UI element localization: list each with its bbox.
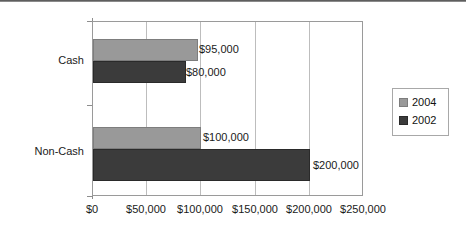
data-label-cash-2002: $80,000	[186, 66, 226, 78]
bar-noncash-2002[interactable]	[93, 149, 310, 181]
category-label-non-cash: Non-Cash	[10, 145, 84, 157]
legend-label-2004: 2004	[412, 96, 436, 108]
legend-item-2004[interactable]: 2004	[399, 96, 436, 108]
chart-legend: 2004 2002	[392, 88, 449, 136]
x-tick-label-100000: $100,000	[170, 203, 230, 215]
bar-chart: $95,000 $80,000 $100,000 $200,000 Cash N…	[0, 0, 466, 231]
y-axis-tick-bottom	[87, 196, 92, 197]
legend-item-2002[interactable]: 2002	[399, 114, 436, 126]
x-tick-label-250000: $250,000	[333, 203, 393, 215]
data-label-cash-2004: $95,000	[199, 43, 239, 55]
data-label-noncash-2002: $200,000	[313, 159, 359, 171]
x-tick-label-0: $0	[62, 203, 122, 215]
scan-top-edge	[0, 0, 466, 2]
legend-swatch-2004-icon	[399, 98, 408, 107]
category-label-cash: Cash	[10, 54, 84, 66]
bar-cash-2004[interactable]	[93, 39, 198, 61]
bar-cash-2002[interactable]	[93, 61, 186, 83]
x-tick-label-50000: $50,000	[116, 203, 176, 215]
legend-label-2002: 2002	[412, 114, 436, 126]
legend-swatch-2002-icon	[399, 116, 408, 125]
x-tick-label-200000: $200,000	[279, 203, 339, 215]
bar-noncash-2004[interactable]	[93, 127, 201, 149]
data-label-noncash-2004: $100,000	[203, 131, 249, 143]
x-tick-label-150000: $150,000	[225, 203, 285, 215]
